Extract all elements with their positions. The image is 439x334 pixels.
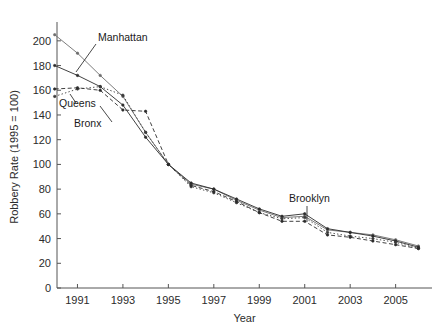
chart-canvas: 0204060801001201401601802001991199319951… bbox=[0, 0, 439, 334]
series-marker-bronx bbox=[303, 220, 306, 223]
y-tick-label: 20 bbox=[39, 257, 51, 269]
series-marker-bronx bbox=[76, 87, 79, 90]
y-tick-label: 100 bbox=[33, 158, 51, 170]
y-tick-label: 140 bbox=[33, 109, 51, 121]
series-marker-brooklyn bbox=[303, 213, 306, 216]
series-marker-manhattan bbox=[76, 52, 79, 55]
series-marker-brooklyn bbox=[213, 188, 216, 191]
x-tick-label: 1995 bbox=[156, 294, 180, 306]
series-marker-bronx bbox=[144, 110, 147, 113]
series-marker-bronx bbox=[167, 163, 170, 166]
series-marker-brooklyn bbox=[235, 198, 238, 201]
x-axis-title: Year bbox=[233, 312, 256, 324]
series-marker-bronx bbox=[53, 88, 56, 91]
series-marker-bronx bbox=[281, 220, 284, 223]
series-marker-bronx bbox=[213, 190, 216, 193]
series-marker-brooklyn bbox=[144, 136, 147, 139]
series-marker-brooklyn bbox=[76, 74, 79, 77]
series-marker-queens bbox=[326, 231, 329, 234]
series-marker-bronx bbox=[349, 236, 352, 239]
y-tick-label: 0 bbox=[45, 282, 51, 294]
series-marker-brooklyn bbox=[281, 215, 284, 218]
series-annotation-bronx: Bronx bbox=[74, 117, 102, 129]
series-marker-queens bbox=[281, 218, 284, 221]
series-annotation-queens: Queens bbox=[59, 97, 96, 109]
series-marker-queens bbox=[99, 85, 102, 88]
series-marker-bronx bbox=[326, 234, 329, 237]
y-tick-label: 80 bbox=[39, 183, 51, 195]
series-marker-bronx bbox=[99, 89, 102, 92]
series-marker-bronx bbox=[372, 240, 375, 243]
y-tick-label: 180 bbox=[33, 60, 51, 72]
series-marker-bronx bbox=[417, 247, 420, 250]
x-tick-label: 1991 bbox=[65, 294, 89, 306]
series-line-queens bbox=[55, 87, 419, 249]
series-marker-queens bbox=[303, 216, 306, 219]
series-marker-bronx bbox=[258, 211, 261, 214]
series-marker-manhattan bbox=[53, 33, 56, 36]
series-line-bronx bbox=[55, 88, 419, 249]
x-tick-label: 2005 bbox=[383, 294, 407, 306]
y-tick-label: 200 bbox=[33, 35, 51, 47]
series-marker-brooklyn bbox=[326, 227, 329, 230]
x-tick-label: 1999 bbox=[247, 294, 271, 306]
x-tick-label: 1997 bbox=[202, 294, 226, 306]
series-marker-bronx bbox=[235, 200, 238, 203]
series-marker-brooklyn bbox=[258, 208, 261, 211]
series-marker-bronx bbox=[122, 109, 125, 112]
x-tick-label: 2003 bbox=[338, 294, 362, 306]
x-tick-label: 2001 bbox=[292, 294, 316, 306]
series-annotation-brooklyn: Brooklyn bbox=[289, 192, 330, 204]
series-line-manhattan bbox=[55, 35, 419, 246]
series-annotation-manhattan: Manhattan bbox=[98, 31, 148, 43]
series-marker-manhattan bbox=[99, 74, 102, 77]
series-marker-queens bbox=[144, 131, 147, 134]
series-marker-brooklyn bbox=[349, 231, 352, 234]
annotation-leader-bronx bbox=[100, 106, 112, 122]
y-tick-label: 60 bbox=[39, 208, 51, 220]
y-axis-title: Robbery Rate (1995 = 100) bbox=[8, 90, 20, 224]
y-tick-label: 40 bbox=[39, 233, 51, 245]
series-marker-queens bbox=[122, 94, 125, 97]
series-marker-bronx bbox=[190, 184, 193, 187]
series-marker-brooklyn bbox=[122, 104, 125, 107]
series-marker-brooklyn bbox=[53, 64, 56, 67]
series-marker-brooklyn bbox=[372, 235, 375, 238]
robbery-rate-line-chart: 0204060801001201401601802001991199319951… bbox=[0, 0, 439, 334]
series-marker-bronx bbox=[394, 243, 397, 246]
x-tick-label: 1993 bbox=[111, 294, 135, 306]
y-tick-label: 120 bbox=[33, 134, 51, 146]
y-tick-label: 160 bbox=[33, 84, 51, 96]
series-line-brooklyn bbox=[55, 66, 419, 248]
series-marker-queens bbox=[53, 95, 56, 98]
